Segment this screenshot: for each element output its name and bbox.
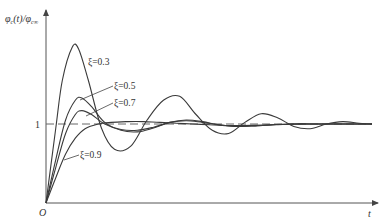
x-axis-label: t bbox=[368, 208, 371, 219]
svg-text:ξ=0.9: ξ=0.9 bbox=[80, 150, 102, 161]
svg-text:ξ=0.5: ξ=0.5 bbox=[114, 81, 136, 92]
step-response-chart: φc(t)/φc∞ 1 O t ξ=0.3 ξ=0.5 ξ=0.7 ξ=0.9 bbox=[0, 0, 381, 224]
curve-0.9 bbox=[46, 122, 372, 203]
svg-text:ξ=0.7: ξ=0.7 bbox=[114, 98, 136, 109]
series-label-0.9: ξ=0.9 bbox=[64, 150, 102, 161]
origin-label: O bbox=[39, 207, 46, 218]
svg-text:ξ=0.3: ξ=0.3 bbox=[88, 57, 110, 68]
reference-label: 1 bbox=[35, 119, 40, 130]
y-axis-label: φc(t)/φc∞ bbox=[5, 13, 39, 25]
series-label-0.3: ξ=0.3 bbox=[88, 57, 110, 68]
